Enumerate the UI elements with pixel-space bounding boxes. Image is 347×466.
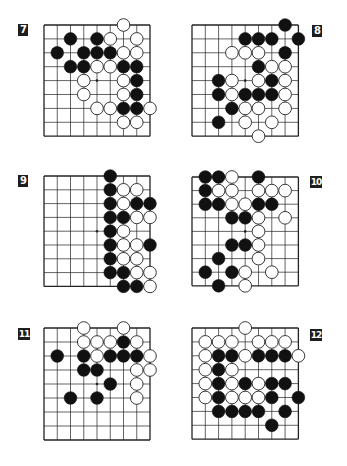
black-stone-icon	[199, 266, 212, 279]
black-stone-icon	[292, 391, 305, 404]
problem-number-badge: 8	[312, 25, 322, 37]
white-stone-icon	[226, 363, 239, 376]
black-stone-icon	[104, 197, 117, 210]
white-stone-icon	[279, 60, 292, 73]
white-stone-icon	[252, 102, 265, 115]
black-stone-icon	[104, 225, 117, 238]
white-stone-icon	[104, 60, 117, 73]
black-stone-icon	[51, 46, 64, 59]
black-stone-icon	[212, 116, 225, 129]
black-stone-icon	[226, 102, 239, 115]
black-stone-icon	[104, 350, 117, 363]
black-stone-icon	[64, 33, 77, 46]
white-stone-icon	[130, 336, 143, 349]
black-stone-icon	[252, 60, 265, 73]
black-stone-icon	[226, 349, 239, 362]
black-stone-icon	[130, 60, 143, 73]
black-stone-icon	[199, 198, 212, 211]
white-stone-icon	[239, 46, 252, 59]
black-stone-icon	[212, 405, 225, 418]
black-stone-icon	[226, 405, 239, 418]
white-stone-icon	[252, 46, 265, 59]
black-stone-icon	[239, 405, 252, 418]
black-stone-icon	[130, 74, 143, 87]
black-stone-icon	[212, 349, 225, 362]
white-stone-icon	[226, 377, 239, 390]
go-board-diagram	[36, 17, 158, 144]
problem-number-badge: 7	[18, 24, 28, 36]
white-stone-icon	[104, 336, 117, 349]
black-stone-icon	[212, 88, 225, 101]
black-stone-icon	[199, 171, 212, 184]
white-stone-icon	[199, 391, 212, 404]
white-stone-icon	[239, 266, 252, 279]
white-stone-icon	[252, 391, 265, 404]
black-stone-icon	[252, 405, 265, 418]
white-stone-icon	[252, 130, 265, 143]
white-stone-icon	[77, 336, 90, 349]
black-stone-icon	[212, 198, 225, 211]
black-stone-icon	[265, 391, 278, 404]
black-stone-icon	[117, 336, 130, 349]
black-stone-icon	[226, 266, 239, 279]
white-stone-icon	[252, 184, 265, 197]
white-stone-icon	[117, 197, 130, 210]
black-stone-icon	[265, 419, 278, 432]
black-stone-icon	[252, 33, 265, 46]
star-point-icon	[96, 79, 99, 82]
white-stone-icon	[226, 74, 239, 87]
white-stone-icon	[130, 183, 143, 196]
white-stone-icon	[104, 102, 117, 115]
white-stone-icon	[252, 74, 265, 87]
black-stone-icon	[91, 33, 104, 46]
black-stone-icon	[91, 46, 104, 59]
white-stone-icon	[130, 378, 143, 391]
white-stone-icon	[279, 336, 292, 349]
black-stone-icon	[117, 211, 130, 224]
black-stone-icon	[144, 239, 157, 252]
white-stone-icon	[117, 46, 130, 59]
black-stone-icon	[212, 377, 225, 390]
white-stone-icon	[212, 184, 225, 197]
white-stone-icon	[144, 364, 157, 377]
white-stone-icon	[117, 252, 130, 265]
black-stone-icon	[279, 405, 292, 418]
black-stone-icon	[265, 88, 278, 101]
problem-number-badge: 12	[310, 329, 322, 341]
white-stone-icon	[199, 336, 212, 349]
white-stone-icon	[226, 88, 239, 101]
white-stone-icon	[77, 322, 90, 335]
black-stone-icon	[130, 102, 143, 115]
black-stone-icon	[77, 46, 90, 59]
black-stone-icon	[104, 252, 117, 265]
white-stone-icon	[279, 211, 292, 224]
black-stone-icon	[130, 280, 143, 293]
go-board-diagram	[184, 320, 306, 447]
white-stone-icon	[279, 184, 292, 197]
white-stone-icon	[212, 336, 225, 349]
white-stone-icon	[117, 19, 130, 32]
white-stone-icon	[91, 102, 104, 115]
white-stone-icon	[117, 183, 130, 196]
black-stone-icon	[104, 211, 117, 224]
go-board-diagram	[184, 17, 306, 144]
black-stone-icon	[77, 350, 90, 363]
black-stone-icon	[199, 184, 212, 197]
black-stone-icon	[104, 378, 117, 391]
black-stone-icon	[64, 60, 77, 73]
white-stone-icon	[252, 252, 265, 265]
black-stone-icon	[292, 33, 305, 46]
black-stone-icon	[104, 266, 117, 279]
white-stone-icon	[239, 349, 252, 362]
white-stone-icon	[77, 74, 90, 87]
white-stone-icon	[117, 322, 130, 335]
black-stone-icon	[212, 279, 225, 292]
white-stone-icon	[252, 377, 265, 390]
black-stone-icon	[279, 377, 292, 390]
black-stone-icon	[239, 239, 252, 252]
black-stone-icon	[64, 392, 77, 405]
problem-number-badge: 9	[18, 175, 28, 187]
white-stone-icon	[144, 211, 157, 224]
white-stone-icon	[239, 391, 252, 404]
white-stone-icon	[117, 74, 130, 87]
